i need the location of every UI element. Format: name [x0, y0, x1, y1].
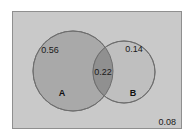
- venn-diagram-canvas: 0.56 0.22 0.14 A B 0.08: [0, 0, 193, 140]
- region-label-a-only: 0.56: [41, 45, 59, 55]
- venn-diagram-figure: 0.56 0.22 0.14 A B 0.08: [0, 0, 193, 140]
- region-label-intersection: 0.22: [94, 67, 112, 77]
- set-b-label: B: [130, 88, 137, 98]
- region-label-outside: 0.08: [158, 117, 176, 127]
- region-label-b-only: 0.14: [125, 44, 143, 54]
- set-a-label: A: [59, 88, 66, 98]
